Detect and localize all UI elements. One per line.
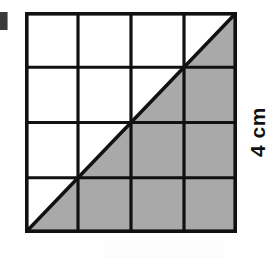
grid-square-diagram [25, 12, 237, 233]
geometry-figure [25, 12, 237, 233]
list-marker [0, 12, 8, 30]
dimension-label-height-text: 4 cm [246, 107, 270, 157]
scan-watermark [104, 240, 224, 258]
dimension-label-height: 4 cm [244, 92, 272, 172]
